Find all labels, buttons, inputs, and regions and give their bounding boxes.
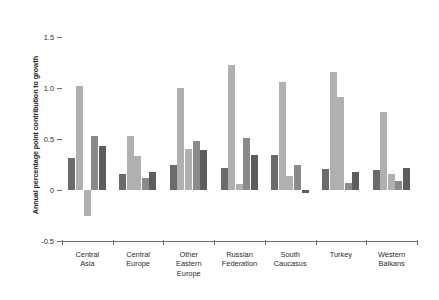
bar: [302, 190, 309, 193]
x-axis-tick-label-line: Russian: [214, 250, 265, 259]
bar: [99, 146, 106, 190]
x-axis-tick-label-line: Europe: [163, 269, 214, 278]
bar: [345, 183, 352, 190]
x-axis-tick-label-line: Other: [163, 250, 214, 259]
y-axis-tick-mark: [57, 37, 62, 38]
x-axis-tick-label: CentralAsia: [62, 250, 113, 269]
bar: [142, 178, 149, 190]
x-axis-tick-label-line: Europe: [113, 259, 164, 268]
y-axis-tick-label: 1.0: [4, 84, 54, 93]
bar: [193, 141, 200, 190]
x-axis-tick-label: RussianFederation: [214, 250, 265, 269]
x-axis-tick-mark: [417, 240, 418, 245]
bar: [76, 86, 83, 190]
x-axis-tick-label-line: Balkans: [366, 259, 417, 268]
y-axis-tick-mark: [57, 190, 62, 191]
y-axis-tick-labels: 1.51.00.50-0.5: [0, 0, 54, 300]
bar: [91, 136, 98, 190]
y-axis-tick-label: -0.5: [4, 237, 54, 246]
bar: [236, 184, 243, 190]
x-axis-tick-label-line: Asia: [62, 259, 113, 268]
bar: [127, 136, 134, 190]
y-axis-tick-mark: [57, 241, 62, 242]
x-axis-tick-label-line: Caucasus: [265, 259, 316, 268]
x-axis-tick-label-line: Federation: [214, 259, 265, 268]
bar: [149, 172, 156, 190]
bar: [380, 112, 387, 190]
x-axis-tick-label-line: Turkey: [316, 250, 367, 259]
x-axis-tick-mark: [366, 240, 367, 245]
plot-area: [62, 37, 417, 241]
y-axis-tick-mark: [57, 139, 62, 140]
bar: [403, 168, 410, 190]
x-axis-tick-mark: [163, 240, 164, 245]
x-axis-tick-label: CentralEurope: [113, 250, 164, 269]
bar: [68, 158, 75, 190]
bar: [279, 82, 286, 190]
bar: [395, 181, 402, 190]
x-axis-tick-mark: [316, 240, 317, 245]
y-axis-tick-label: 1.5: [4, 33, 54, 42]
bar: [337, 97, 344, 190]
bar: [352, 172, 359, 190]
bar: [271, 155, 278, 190]
bar: [134, 156, 141, 190]
x-axis-tick-label: SouthCaucasus: [265, 250, 316, 269]
bar: [322, 169, 329, 190]
bar: [330, 72, 337, 190]
x-axis-tick-label: Turkey: [316, 250, 367, 259]
x-axis-tick-label: OtherEasternEurope: [163, 250, 214, 278]
bar: [119, 174, 126, 190]
x-axis-tick-mark: [214, 240, 215, 245]
x-axis-tick-mark: [62, 240, 63, 245]
y-axis-tick-mark: [57, 88, 62, 89]
x-axis-tick-mark: [265, 240, 266, 245]
bar: [200, 150, 207, 190]
bar: [221, 168, 228, 190]
x-axis-tick-label-line: Central: [113, 250, 164, 259]
bar: [373, 170, 380, 190]
chart-figure: Annual percentage point contribution to …: [0, 0, 439, 300]
x-axis-tick-mark: [113, 240, 114, 245]
y-axis-tick-label: 0: [4, 186, 54, 195]
bar: [84, 190, 91, 216]
x-axis-tick-label-line: Eastern: [163, 259, 214, 268]
x-axis-tick-label: WesternBalkans: [366, 250, 417, 269]
bar: [228, 65, 235, 190]
bar: [243, 138, 250, 190]
bar: [251, 155, 258, 190]
bar: [294, 165, 301, 191]
x-axis-tick-label-line: Western: [366, 250, 417, 259]
y-axis-tick-label: 0.5: [4, 135, 54, 144]
x-axis-tick-label-line: Central: [62, 250, 113, 259]
x-axis-tick-label-line: South: [265, 250, 316, 259]
bar: [388, 174, 395, 190]
bar: [185, 149, 192, 190]
bar: [286, 176, 293, 190]
bar: [170, 165, 177, 191]
bar: [177, 88, 184, 190]
